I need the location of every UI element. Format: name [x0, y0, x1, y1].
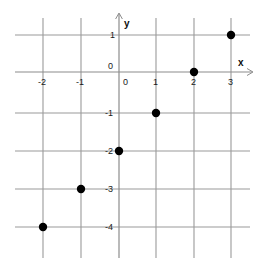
data-point — [115, 147, 123, 155]
x-tick-label-neg1: -1 — [76, 78, 84, 87]
coordinate-plane-figure: -2 -1 0 1 2 3 1 0 -1 -2 -3 -4 y x — [0, 0, 268, 270]
x-tick-label-0: 0 — [123, 78, 128, 87]
data-point — [152, 109, 160, 117]
y-tick-label-1: 1 — [110, 31, 115, 40]
y-tick-label-neg4: -4 — [105, 223, 113, 232]
x-tick-label-1: 1 — [153, 78, 158, 87]
data-point — [190, 68, 198, 76]
x-tick-label-2: 2 — [191, 78, 196, 87]
y-axis-label: y — [124, 19, 130, 29]
x-axis — [15, 69, 253, 76]
y-tick-label-neg3: -3 — [105, 185, 113, 194]
data-point — [227, 31, 235, 39]
y-tick-label-neg1: -1 — [105, 109, 113, 118]
y-tick-label-0: 0 — [108, 62, 113, 71]
data-point — [77, 185, 85, 193]
data-point — [39, 223, 47, 231]
vertical-gridlines — [43, 18, 231, 258]
coordinate-grid-svg — [0, 0, 268, 270]
data-points — [39, 31, 235, 231]
y-axis — [116, 13, 123, 258]
horizontal-gridlines — [15, 35, 250, 227]
x-tick-label-3: 3 — [228, 78, 233, 87]
x-tick-label-neg2: -2 — [38, 78, 46, 87]
x-axis-label: x — [238, 58, 244, 68]
y-tick-label-neg2: -2 — [105, 147, 113, 156]
